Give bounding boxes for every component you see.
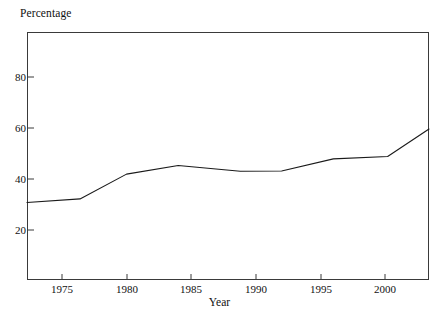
y-tick-label-80: 80	[4, 71, 26, 83]
x-tick-label-1990: 1990	[236, 283, 276, 295]
y-axis-title: Percentage	[20, 6, 71, 20]
x-tick-label-1975: 1975	[42, 283, 82, 295]
line-chart-figure: Percentage 80 60 40 20 1975 1980 1985 19…	[0, 0, 439, 314]
x-tick-label-2000: 2000	[365, 283, 405, 295]
plot-area-frame	[27, 32, 429, 280]
y-tick-label-40: 40	[4, 173, 26, 185]
x-axis-title: Year	[0, 295, 439, 309]
x-tick-label-1995: 1995	[301, 283, 341, 295]
x-tick-label-1980: 1980	[107, 283, 147, 295]
x-tick-label-1985: 1985	[171, 283, 211, 295]
y-tick-label-60: 60	[4, 122, 26, 134]
y-tick-label-20: 20	[4, 224, 26, 236]
